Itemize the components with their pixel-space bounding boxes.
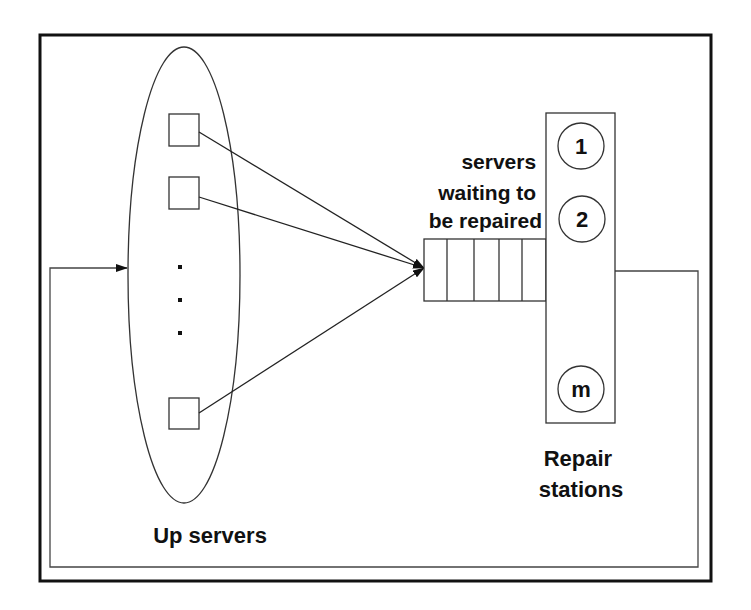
- queue-label-line-1: servers: [461, 150, 536, 173]
- queue-label: servers waiting to be repaired: [429, 150, 542, 232]
- arrow-server-1-to-queue: [199, 132, 424, 268]
- ellipsis-dot: [178, 331, 182, 335]
- server-box-1: [169, 114, 199, 146]
- waiting-queue: [424, 239, 546, 301]
- arrow-server-2-to-queue: [199, 197, 424, 268]
- station-label-2: 2: [576, 207, 588, 232]
- queue-label-line-2: waiting to: [437, 181, 536, 204]
- repair-queue-diagram: servers waiting to be repaired 1 2 m Rep…: [0, 0, 751, 610]
- server-box-n: [169, 398, 199, 429]
- ellipsis-dot: [178, 298, 182, 302]
- arrow-server-n-to-queue: [199, 268, 424, 413]
- repair-stations-label: Repair stations: [539, 446, 623, 502]
- ellipsis-dot: [178, 265, 182, 269]
- queue-label-line-3: be repaired: [429, 209, 542, 232]
- server-box-2: [169, 177, 199, 209]
- station-label-m: m: [571, 377, 591, 402]
- repair-stations-label-line-2: stations: [539, 477, 623, 502]
- station-label-1: 1: [575, 134, 587, 159]
- up-servers-label: Up servers: [153, 523, 267, 548]
- repair-stations-label-line-1: Repair: [544, 446, 613, 471]
